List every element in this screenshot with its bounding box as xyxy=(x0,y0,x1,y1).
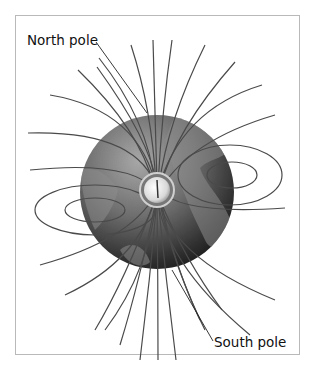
south-pole-leader xyxy=(172,270,213,341)
north-pole-label: North pole xyxy=(27,32,98,48)
magnetic-field-diagram xyxy=(0,0,316,371)
compass xyxy=(140,173,174,207)
south-pole-label: South pole xyxy=(214,334,286,350)
